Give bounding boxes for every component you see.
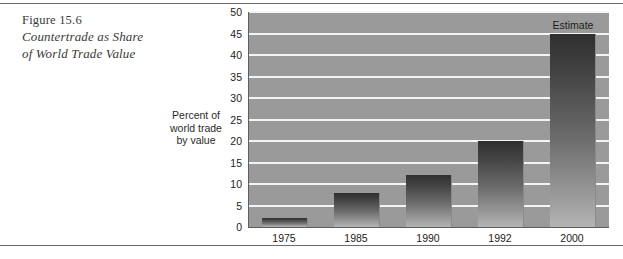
y-tick-label-10: 10 bbox=[218, 178, 242, 190]
bar-1975[interactable] bbox=[262, 218, 308, 227]
page-rule-top bbox=[0, 3, 623, 4]
x-tick-label-2000: 2000 bbox=[560, 232, 583, 244]
bar-group: Estimate bbox=[249, 12, 609, 227]
bar-1985[interactable] bbox=[334, 193, 380, 227]
page-rule-bottom bbox=[0, 245, 623, 246]
bar-slot-2000 bbox=[537, 12, 609, 227]
y-tick-label-20: 20 bbox=[218, 135, 242, 147]
y-axis-tick-labels: 05101520253035404550 bbox=[214, 12, 242, 227]
bar-slot-1992 bbox=[465, 12, 537, 227]
y-tick-label-40: 40 bbox=[218, 49, 242, 61]
figure-title-line-2: of World Trade Value bbox=[22, 46, 212, 62]
y-tick-label-5: 5 bbox=[218, 200, 242, 212]
figure-caption: Figure 15.6 Countertrade as Share of Wor… bbox=[22, 13, 212, 61]
bar-annotation-2000: Estimate bbox=[553, 19, 594, 31]
y-tick-label-50: 50 bbox=[218, 6, 242, 18]
x-tick-label-1985: 1985 bbox=[344, 232, 367, 244]
y-tick-label-25: 25 bbox=[218, 114, 242, 126]
figure-title-line-1: Countertrade as Share bbox=[22, 29, 212, 45]
x-tick-label-1975: 1975 bbox=[272, 232, 295, 244]
x-tick-label-1992: 1992 bbox=[488, 232, 511, 244]
bar-slot-1990 bbox=[393, 12, 465, 227]
y-tick-label-15: 15 bbox=[218, 157, 242, 169]
bar-chart-plot-area: Estimate bbox=[248, 12, 609, 228]
y-tick-label-35: 35 bbox=[218, 71, 242, 83]
bar-1992[interactable] bbox=[478, 141, 524, 227]
bar-slot-1985 bbox=[321, 12, 393, 227]
y-tick-label-0: 0 bbox=[218, 221, 242, 233]
bar-1990[interactable] bbox=[406, 175, 452, 227]
figure-number: Figure 15.6 bbox=[22, 13, 212, 28]
x-tick-label-1990: 1990 bbox=[416, 232, 439, 244]
y-tick-label-30: 30 bbox=[218, 92, 242, 104]
y-tick-label-45: 45 bbox=[218, 28, 242, 40]
bar-2000[interactable] bbox=[550, 34, 596, 228]
bar-slot-1975 bbox=[249, 12, 321, 227]
